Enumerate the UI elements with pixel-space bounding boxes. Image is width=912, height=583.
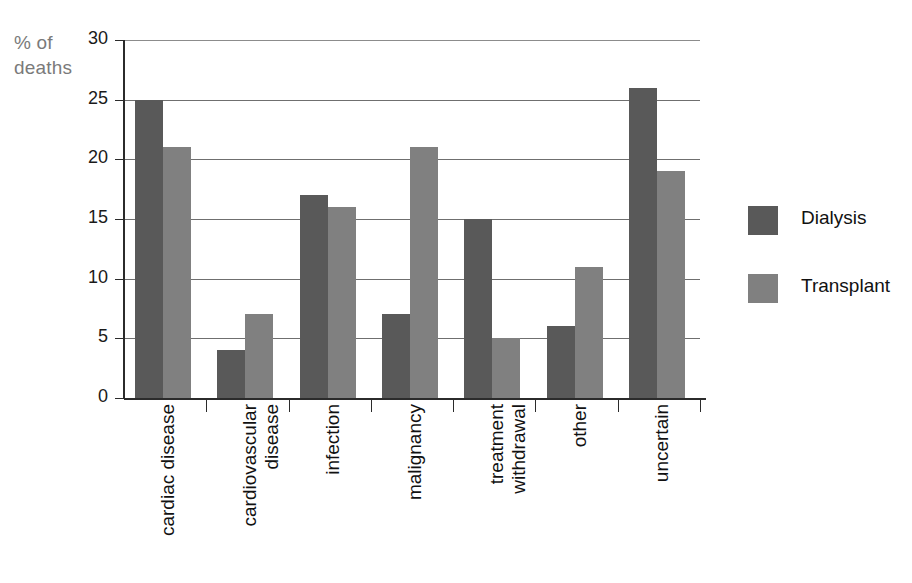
- legend-label-transplant: Transplant: [801, 275, 890, 297]
- bar-malignancy-transplant: [410, 147, 438, 398]
- bar-other-transplant: [575, 267, 603, 398]
- x-axis-label-other: other: [569, 404, 591, 447]
- y-tick-label-15: 15: [74, 207, 108, 228]
- y-tick-label-30: 30: [74, 28, 108, 49]
- bar-malignancy-dialysis: [382, 314, 410, 398]
- bar-chart: % of deaths 051015202530 cardiac disease…: [0, 0, 912, 583]
- y-tick-label-5: 5: [74, 326, 108, 347]
- bars-layer: [124, 40, 700, 398]
- bar-cardiac-disease-transplant: [163, 147, 191, 398]
- y-axis-title-line-1: % of: [14, 32, 53, 53]
- bar-cardiovascular-disease-dialysis: [217, 350, 245, 398]
- plot-area: 051015202530: [124, 40, 700, 398]
- bar-uncertain-dialysis: [629, 88, 657, 398]
- legend-swatch-transplant: [748, 274, 778, 303]
- bar-infection-transplant: [328, 207, 356, 398]
- x-axis-label-treatment-withdrawal: withdrawal: [508, 404, 530, 494]
- bar-cardiovascular-disease-transplant: [245, 314, 273, 398]
- x-axis-label-treatment-withdrawal: treatment: [486, 404, 508, 484]
- y-tick-mark-0: [115, 398, 125, 399]
- y-tick-label-25: 25: [74, 88, 108, 109]
- x-axis-label-infection: infection: [322, 404, 344, 475]
- y-tick-label-10: 10: [74, 267, 108, 288]
- bar-cardiac-disease-dialysis: [135, 100, 163, 398]
- y-tick-label-20: 20: [74, 147, 108, 168]
- x-axis-label-cardiovascular-disease: cardiovascular: [239, 404, 261, 527]
- x-axis-label-cardiac-disease: cardiac disease: [157, 404, 179, 536]
- x-axis-label-malignancy: malignancy: [404, 404, 426, 500]
- bar-infection-dialysis: [300, 195, 328, 398]
- y-tick-label-0: 0: [74, 386, 108, 407]
- y-axis-title-line-2: deaths: [14, 57, 72, 78]
- x-axis-label-uncertain: uncertain: [651, 404, 673, 482]
- x-axis-labels: cardiac diseasecardiovasculardiseaseinfe…: [124, 404, 724, 579]
- bar-treatment-withdrawal-transplant: [492, 338, 520, 398]
- x-axis-label-cardiovascular-disease: disease: [261, 404, 283, 470]
- legend-label-dialysis: Dialysis: [801, 207, 866, 229]
- bar-treatment-withdrawal-dialysis: [464, 219, 492, 398]
- legend-swatch-dialysis: [748, 206, 778, 235]
- bar-other-dialysis: [547, 326, 575, 398]
- bar-uncertain-transplant: [657, 171, 685, 398]
